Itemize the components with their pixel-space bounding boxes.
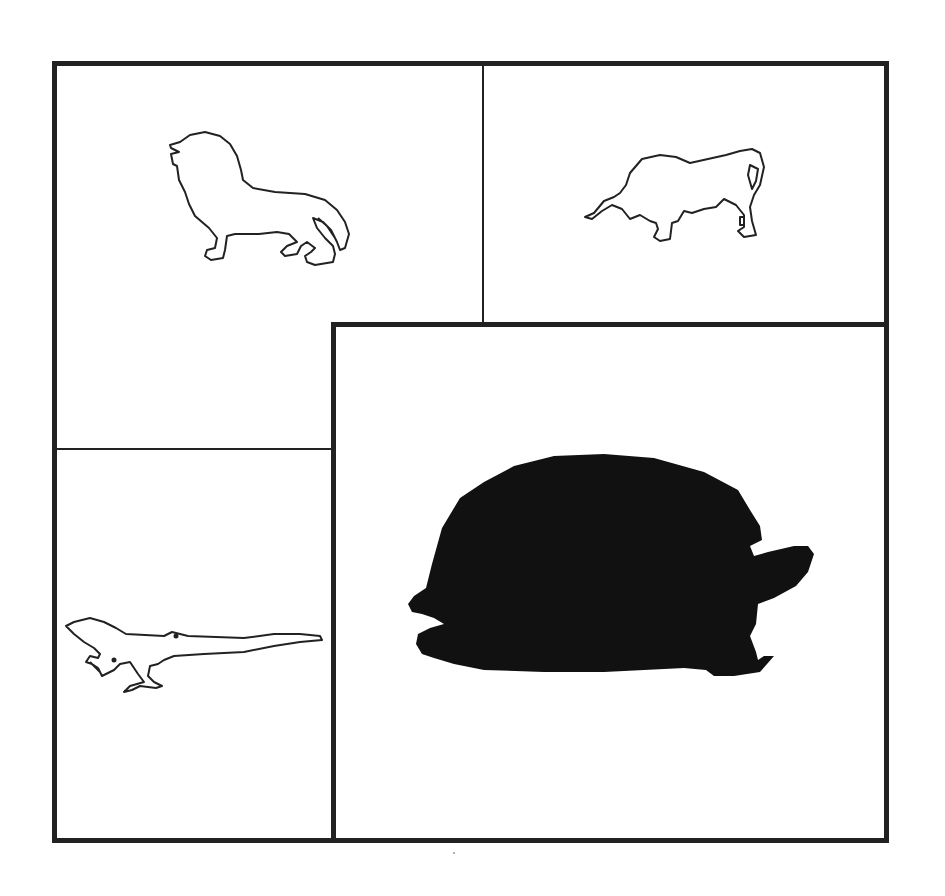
bull-icon [580, 145, 775, 250]
tortoise-icon [404, 448, 816, 680]
lizard-icon [64, 616, 326, 696]
scan-speck [453, 852, 455, 854]
lion-icon [165, 130, 355, 270]
